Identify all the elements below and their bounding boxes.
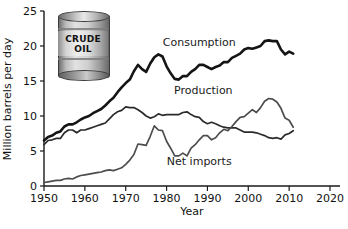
x-tick-label: 1970 bbox=[112, 192, 140, 205]
annotation-net-imports: Net imports bbox=[167, 155, 232, 168]
barrel-label-line1: CRUDE bbox=[65, 34, 100, 44]
x-tick-label: 2000 bbox=[234, 192, 262, 205]
y-tick-label: 15 bbox=[23, 75, 37, 88]
x-axis-title: Year bbox=[179, 205, 204, 218]
y-axis-title: Million barrels per day bbox=[1, 37, 14, 160]
x-tick-label: 1980 bbox=[153, 192, 181, 205]
barrel-top-rim bbox=[58, 11, 110, 22]
y-tick-label: 10 bbox=[23, 110, 37, 123]
x-tick-label: 1950 bbox=[30, 192, 58, 205]
barrel-rib-top bbox=[58, 28, 108, 30]
x-tick-label: 2020 bbox=[316, 192, 344, 205]
barrel-label-band: CRUDE OIL bbox=[58, 31, 108, 56]
y-tick-label: 0 bbox=[30, 180, 37, 193]
chart-container: 0510152025 19501960197019801990200020102… bbox=[0, 0, 348, 229]
series-line-net-imports bbox=[44, 99, 293, 183]
x-axis-ticks: 19501960197019801990200020102020 bbox=[30, 186, 344, 205]
x-tick-label: 1990 bbox=[193, 192, 221, 205]
y-tick-label: 20 bbox=[23, 40, 37, 53]
line-chart: 0510152025 19501960197019801990200020102… bbox=[0, 0, 348, 229]
y-tick-label: 25 bbox=[23, 5, 37, 18]
annotation-consumption: Consumption bbox=[163, 36, 236, 49]
y-tick-label: 5 bbox=[30, 145, 37, 158]
x-tick-label: 2010 bbox=[275, 192, 303, 205]
y-axis-ticks: 0510152025 bbox=[23, 5, 44, 193]
x-tick-label: 1960 bbox=[71, 192, 99, 205]
crude-oil-barrel-illustration: CRUDE OIL bbox=[55, 10, 111, 81]
barrel-rib-bottom bbox=[58, 58, 108, 60]
series-annotations: ConsumptionProductionNet imports bbox=[163, 36, 236, 168]
annotation-production: Production bbox=[174, 84, 233, 97]
barrel-bottom-rim bbox=[58, 70, 110, 81]
barrel-label-line2: OIL bbox=[74, 44, 91, 54]
